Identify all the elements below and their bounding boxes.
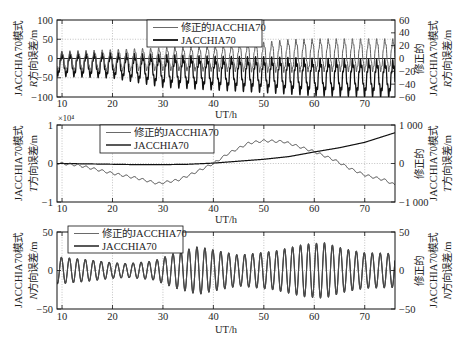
y-axis-title-right-line2: N方向误差/m [441,241,453,300]
y-tick-label-left: 0 [48,158,53,169]
y-axis-title-right-line2: R方向误差/m [441,30,453,89]
y-axis-title-right-line1: JACCHIA70模式 [427,20,439,96]
legend-label: 修正的JACCHIA70 [134,126,219,138]
y-axis-title-left-line1: JACCHIA70模式 [12,125,24,201]
y-tick-label-right: 40 [399,27,410,38]
axis-unit-text: 方向误差/m [441,30,453,81]
legend-label: JACCHIA70 [102,241,157,252]
y-axis-title-right-line1: JACCHIA70模式 [427,232,439,308]
x-tick-label: 60 [309,311,320,322]
x-axis-title: UT/h [215,324,238,335]
y-tick-label-right: 0 [399,53,404,64]
panel-n-direction-error: 10203040506070−50050−50050UT/hJACCHIA70模… [12,226,453,335]
y-tick-label-left: 0 [48,53,53,64]
x-tick-label: 40 [208,203,219,214]
x-tick-label: 30 [158,98,169,109]
y-axis-title-right-line1: JACCHIA70模式 [427,125,439,201]
y-tick-label-right: −40 [399,79,415,90]
x-tick-label: 40 [208,98,219,109]
panel-r-direction-error: 10203040506070−100−50050100−60−40−200204… [12,15,453,121]
legend: 修正的JACCHIA70JACCHIA70 [100,125,219,153]
y-axis-title-right-line2: T方向误差/m [441,135,453,192]
y-tick-label-left: 50 [43,227,54,238]
y-tick-label-left: −50 [37,72,53,83]
legend: 修正的JACCHIA70JACCHIA70 [147,20,266,47]
y-tick-label-left: −50 [37,304,53,315]
y-tick-label-right: 0 [399,265,404,276]
legend: 修正的JACCHIA70JACCHIA70 [68,226,187,253]
x-tick-label: 20 [107,311,118,322]
legend-label: JACCHIA70 [134,140,189,151]
y-tick-label-right: −60 [399,92,415,103]
y-tick-label-right: −50 [399,304,415,315]
x-tick-label: 30 [158,311,169,322]
y-tick-label-left: 100 [37,15,53,26]
x-tick-label: 70 [359,203,370,214]
y-axis-title-right-line0: 修正的 [413,44,425,74]
panel-t-direction-error: 10203040506070−101−1 00001 000×10⁴UT/hJA… [12,113,453,225]
y-axis-title-left-line1: JACCHIA70模式 [12,232,24,308]
y-tick-label-right: 1 000 [399,120,423,131]
y-axis-title-left-line2: N方向误差/m [27,241,39,300]
figure-three-panel-error-plot: 10203040506070−100−50050100−60−40−200204… [0,0,463,341]
y-axis-title-left-line1: JACCHIA70模式 [12,20,24,96]
x-tick-label: 70 [359,98,370,109]
x-tick-label: 70 [359,311,370,322]
y-axis-title-right-line0: 修正的 [413,256,425,286]
legend-label: 修正的JACCHIA70 [181,21,266,33]
x-axis-title: UT/h [215,109,238,120]
x-tick-label: 10 [57,311,68,322]
y-tick-label-right: −1 000 [399,197,429,208]
x-tick-label: 40 [208,311,219,322]
axis-unit-text: 方向误差/m [441,135,453,186]
x-tick-label: 50 [259,203,270,214]
axis-unit-text: 方向误差/m [27,241,39,292]
y-axis-multiplier: ×10⁴ [58,113,74,123]
axis-unit-text: 方向误差/m [441,241,453,292]
y-tick-label-right: 0 [399,158,404,169]
y-axis-title-left-line2: T方向误差/m [27,135,39,192]
x-tick-label: 20 [107,203,118,214]
y-axis-title-left-line2: R方向误差/m [27,30,39,89]
x-tick-label: 30 [158,203,169,214]
legend-label: 修正的JACCHIA70 [102,227,187,239]
x-axis-title: UT/h [215,214,238,225]
x-tick-label: 10 [57,98,68,109]
x-tick-label: 50 [259,311,270,322]
axis-unit-text: 方向误差/m [27,30,39,81]
x-tick-label: 20 [107,98,118,109]
y-tick-label-left: −100 [31,92,53,103]
x-tick-label: 10 [57,203,68,214]
y-tick-label-right: 60 [399,15,410,26]
x-tick-label: 60 [309,98,320,109]
y-tick-label-left: 0 [48,265,53,276]
y-axis-title-right-line0: 修正的 [413,149,425,179]
y-tick-label-left: 50 [43,34,54,45]
x-tick-label: 60 [309,203,320,214]
axis-unit-text: 方向误差/m [27,135,39,186]
y-tick-label-left: 1 [48,120,53,131]
legend-label: JACCHIA70 [181,35,236,46]
y-tick-label-left: −1 [42,197,53,208]
x-tick-label: 50 [259,98,270,109]
y-tick-label-right: 50 [399,227,410,238]
y-tick-label-right: 20 [399,40,410,51]
